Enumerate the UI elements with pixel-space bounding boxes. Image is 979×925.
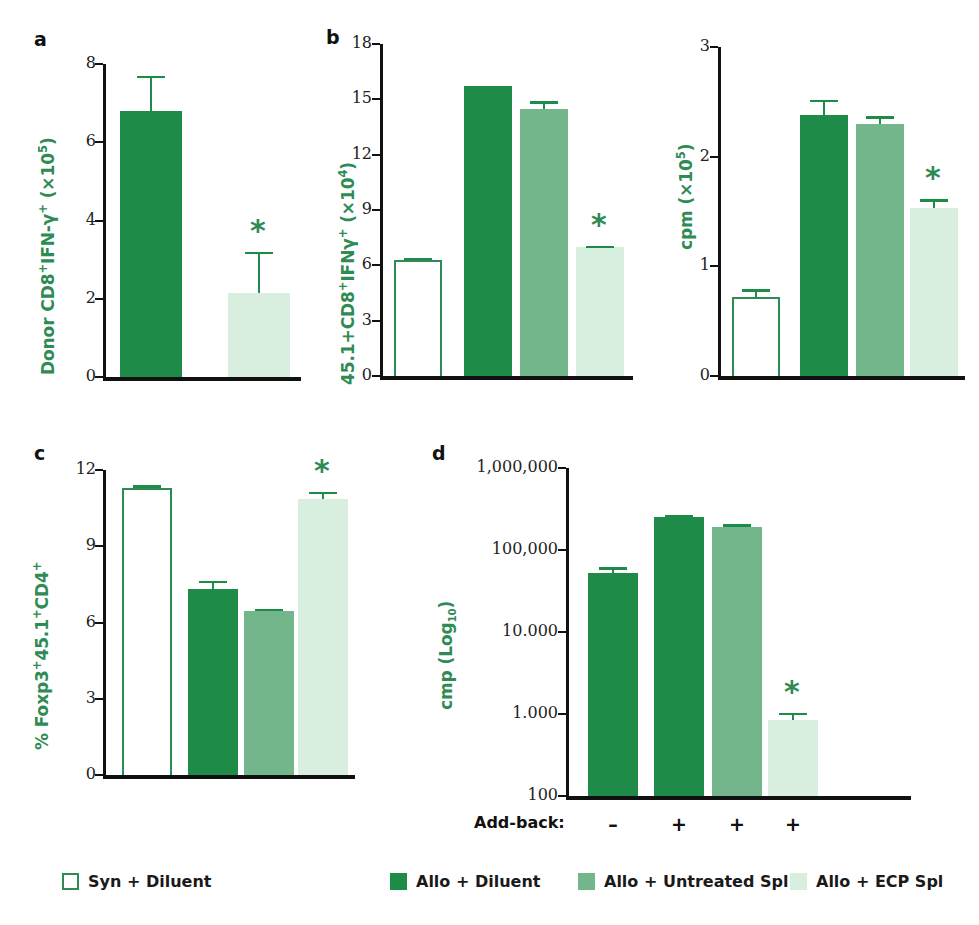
legend-item-medium[interactable]: Allo + Untreated Spl (578, 872, 788, 891)
legend-swatch-icon (390, 873, 407, 890)
y-axis-tick (95, 220, 103, 222)
y-axis-tick-label: 100 (418, 785, 558, 804)
y-axis-tick-label: 9 (334, 199, 372, 218)
y-axis-tick (372, 209, 380, 211)
y-axis-tick (710, 46, 718, 48)
panel-b-cpm-x-axis-line (718, 376, 965, 380)
error-bar-cap (810, 100, 838, 103)
y-axis-tick (710, 265, 718, 267)
y-axis-tick-label: 8 (62, 53, 96, 72)
panel-a-y-axis-line (103, 64, 106, 380)
bar (120, 111, 182, 377)
add-back-value: + (664, 813, 694, 835)
y-axis-tick (95, 545, 103, 547)
panel-d-x-axis-line (566, 796, 911, 800)
y-axis-tick-label: 12 (56, 459, 96, 478)
bar (588, 573, 638, 796)
bar (654, 517, 704, 796)
panel-c: c % Foxp3+45.1+CD4+ 129630* (0, 420, 400, 820)
y-axis-tick-label: 6 (56, 612, 96, 631)
y-axis-tick (558, 631, 566, 633)
significance-asterisk: * (250, 216, 266, 246)
y-axis-tick-label: 12 (334, 144, 372, 163)
bar (768, 720, 818, 796)
y-axis-tick-label: 0 (334, 365, 372, 384)
y-axis-tick (372, 320, 380, 322)
y-axis-tick (372, 154, 380, 156)
error-bar-cap (866, 116, 894, 119)
y-axis-tick (95, 298, 103, 300)
bar (856, 124, 904, 376)
error-bar-cap (245, 252, 273, 255)
y-axis-tick-label: 4 (62, 210, 96, 229)
error-bar-cap (920, 199, 948, 202)
significance-asterisk: * (925, 163, 941, 193)
error-bar-line (150, 76, 153, 111)
y-axis-tick-label: 0 (62, 366, 96, 385)
significance-asterisk: * (314, 456, 330, 486)
panel-a-x-axis-line (103, 377, 301, 381)
y-axis-tick (372, 98, 380, 100)
bar (910, 208, 958, 376)
y-axis-tick (95, 376, 103, 378)
bar (464, 86, 512, 376)
legend-item-light[interactable]: Allo + ECP Spl (790, 872, 943, 891)
y-axis-tick (710, 375, 718, 377)
y-axis-tick-label: 6 (62, 131, 96, 150)
bar (520, 109, 568, 376)
bar (800, 115, 848, 376)
panel-c-x-axis-line (103, 775, 355, 779)
y-axis-tick-label: 0 (56, 764, 96, 783)
add-back-value: + (778, 813, 808, 835)
error-bar-cap (404, 258, 432, 261)
y-axis-tick-label: 2 (62, 288, 96, 307)
y-axis-tick-label: 10.000 (418, 621, 558, 640)
panel-b-x-axis-line (380, 376, 633, 380)
y-axis-tick (95, 774, 103, 776)
panel-d-y-axis-line (566, 468, 569, 798)
y-axis-tick-label: 1 (682, 255, 710, 274)
error-bar-cap (742, 289, 770, 292)
legend-swatch-icon (578, 873, 595, 890)
y-axis-tick-label: 18 (334, 33, 372, 52)
y-axis-tick (710, 156, 718, 158)
legend-swatch-icon (790, 873, 807, 890)
y-axis-tick (372, 43, 380, 45)
error-bar-cap (586, 246, 614, 249)
y-axis-tick-label: 2 (682, 146, 710, 165)
bar (576, 247, 624, 376)
panel-b-y-axis-line (380, 44, 383, 378)
bar (298, 499, 348, 775)
panel-a: a Donor CD8+IFN-γ+ (×105) 86420* (0, 0, 330, 420)
panel-c-plot-area: 129630* (0, 420, 400, 820)
panel-d: d cmp (Log10) 1,000,000100,00010.0001.00… (400, 420, 979, 820)
panel-b-cpm-y-axis-line (718, 47, 721, 378)
legend-item-dark[interactable]: Allo + Diluent (390, 872, 540, 891)
add-back-value: – (598, 813, 628, 835)
y-axis-tick (95, 63, 103, 65)
panel-b-plot-area: 1815129630* (330, 0, 660, 420)
y-axis-tick-label: 15 (334, 88, 372, 107)
error-bar-cap (199, 581, 227, 584)
y-axis-tick (95, 698, 103, 700)
error-bar-cap (599, 567, 627, 570)
figure-root: a Donor CD8+IFN-γ+ (×105) 86420* b 45.1+… (0, 0, 979, 925)
bar (228, 293, 290, 377)
significance-asterisk: * (591, 210, 607, 240)
y-axis-tick (95, 469, 103, 471)
panel-b-cpm: cpm (×105) 3210* (660, 0, 979, 420)
bar (188, 589, 238, 775)
error-bar-cap (530, 101, 558, 104)
legend-label: Syn + Diluent (88, 872, 211, 891)
add-back-label: Add-back: (474, 813, 565, 832)
y-axis-tick (372, 375, 380, 377)
panel-b: b 45.1+CD8+IFNγ+ (×104) 1815129630* (330, 0, 660, 420)
error-bar-cap (779, 713, 807, 716)
legend-swatch-icon (62, 873, 79, 890)
error-bar-cap (309, 492, 337, 495)
significance-asterisk: * (784, 677, 800, 707)
legend-item-open[interactable]: Syn + Diluent (62, 872, 211, 891)
y-axis-tick (558, 713, 566, 715)
y-axis-tick-label: 3 (56, 688, 96, 707)
y-axis-tick-label: 1.000 (418, 703, 558, 722)
